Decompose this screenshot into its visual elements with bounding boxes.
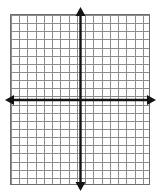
grid-lines	[11, 15, 149, 184]
grid-plot-area	[10, 14, 150, 185]
coordinate-grid-figure	[0, 0, 161, 196]
